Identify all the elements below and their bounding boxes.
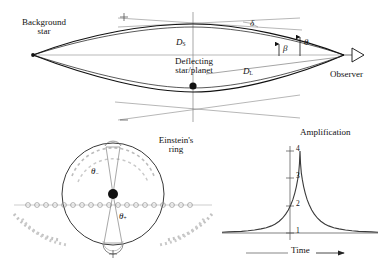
ring-arc-outer-right-2 — [158, 219, 204, 245]
ring-lens-marker — [108, 189, 118, 199]
delta-angle-label: δ — [250, 19, 254, 28]
chart-ytick-1: 1 — [296, 227, 300, 235]
einstein-ring-group — [14, 141, 212, 258]
deflecting-star-marker — [189, 82, 196, 89]
ring-arc-outer-left-2 — [22, 219, 68, 245]
ring-arc-inner-upper-2 — [78, 159, 148, 182]
theta-plus-subscript: + — [123, 215, 126, 221]
ring-arc-outer-left-1 — [14, 214, 60, 240]
ring-arc-outer-right-1 — [166, 214, 212, 240]
observer-label: Observer — [330, 70, 363, 79]
distance-lens-label: DL — [243, 67, 253, 77]
observer-eye-icon — [352, 48, 364, 62]
einstein-ring-title: Einstein's ring — [145, 136, 207, 154]
apparent-ray-lower-1 — [115, 102, 300, 118]
chart-title: Amplification — [300, 128, 351, 137]
distance-source-label: DS — [176, 38, 186, 48]
theta-minus-label: θ− — [91, 167, 99, 177]
ring-plus-mark — [109, 250, 117, 258]
amplification-chart-group — [222, 146, 378, 253]
distance-source-subscript: S — [183, 41, 186, 47]
theta-plus-image-arc-2 — [103, 241, 123, 251]
amplification-curve — [222, 151, 378, 232]
apparent-ray-upper-2 — [118, 18, 300, 27]
distance-lens-subscript: L — [250, 70, 253, 76]
chart-ytick-2: 2 — [296, 200, 300, 208]
theta-plus-label: θ+ — [119, 212, 127, 222]
figure-root: Background star Deflecting star/planet O… — [0, 0, 390, 267]
theta-angle-label: θ — [304, 38, 308, 47]
theta-minus-subscript: − — [95, 170, 98, 176]
chart-xlabel: Time — [291, 246, 310, 255]
deflecting-star-label: Deflecting star/planet — [154, 57, 234, 75]
beta-angle-label: β — [283, 44, 287, 53]
chart-ytick-4: 4 — [296, 145, 300, 153]
background-star-label: Background star — [6, 18, 82, 36]
theta-minus-wedge — [106, 147, 120, 194]
background-star-marker — [31, 53, 35, 57]
plus-mark-upper — [120, 13, 128, 21]
chart-ytick-3: 3 — [296, 172, 300, 180]
apparent-ray-lower-2 — [118, 95, 300, 120]
